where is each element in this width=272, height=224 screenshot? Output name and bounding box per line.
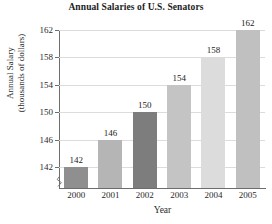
chart-title: Annual Salaries of U.S. Senators	[0, 2, 272, 12]
y-axis-tick-label: 150	[40, 107, 54, 117]
bar-value-label: 146	[104, 128, 118, 138]
bar-value-label: 162	[241, 18, 255, 28]
bar-value-label: 154	[172, 73, 186, 83]
bar	[64, 167, 88, 188]
bar-group: 158	[196, 30, 230, 188]
x-axis-line	[59, 188, 266, 189]
x-axis-title: Year	[59, 205, 266, 215]
bars-layer: 142146150154158162	[59, 30, 266, 188]
y-axis-title: Annual Salary (thousands of dollars)	[5, 3, 31, 143]
x-axis-tick-label: 2000	[67, 190, 85, 200]
x-axis-tick-label: 2004	[205, 190, 223, 200]
bar-group: 150	[128, 30, 162, 188]
x-axis-tick-label: 2002	[136, 190, 154, 200]
y-axis-title-line-2: (thousands of dollars)	[16, 3, 27, 143]
x-axis-tick-label: 2001	[102, 190, 120, 200]
y-axis-title-line-1: Annual Salary	[5, 3, 16, 143]
bar	[236, 30, 260, 188]
bar-value-label: 142	[69, 155, 83, 165]
bar-chart: Annual Salaries of U.S. Senators Annual …	[0, 0, 272, 224]
y-axis-tick-label: 158	[40, 52, 54, 62]
bar	[133, 112, 157, 188]
y-axis-tick-label: 142	[40, 162, 54, 172]
y-axis-tick-label: 162	[40, 25, 54, 35]
bar-value-label: 150	[138, 100, 152, 110]
bar-group: 146	[93, 30, 127, 188]
x-axis-tick-label: 2005	[239, 190, 257, 200]
x-axis-tick-labels: 200020012002200320042005	[59, 190, 266, 204]
bar-group: 154	[162, 30, 196, 188]
bar-group: 162	[231, 30, 265, 188]
bar	[201, 57, 225, 188]
bar-group: 142	[59, 30, 93, 188]
x-axis-tick-label: 2003	[170, 190, 188, 200]
bar	[167, 85, 191, 188]
bar-value-label: 158	[207, 45, 221, 55]
y-axis-tick-label: 154	[40, 80, 54, 90]
y-axis-tick-label: 146	[40, 135, 54, 145]
bar	[98, 140, 122, 188]
